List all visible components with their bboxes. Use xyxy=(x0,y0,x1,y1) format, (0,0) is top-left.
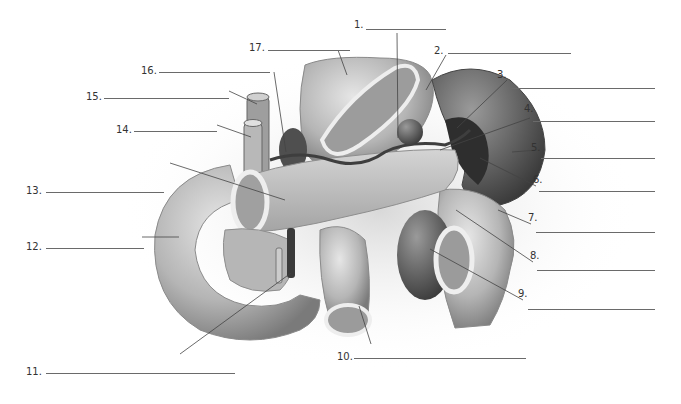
answer-line-11[interactable] xyxy=(46,373,235,374)
label-number-2: 2. xyxy=(434,46,444,56)
anatomy-worksheet: 1. 2. 3. 4. 5. 6. 7. 8. 9. 10. 11. 12. 1… xyxy=(0,0,681,404)
superior-mesenteric-artery xyxy=(276,248,282,283)
label-number-13: 13. xyxy=(26,186,42,196)
answer-line-12[interactable] xyxy=(46,248,144,249)
label-number-6: 6. xyxy=(533,175,543,185)
label-number-5: 5. xyxy=(531,143,541,153)
aorta-cut-end xyxy=(244,120,262,127)
answer-line-7[interactable] xyxy=(536,232,655,233)
answer-line-14[interactable] xyxy=(134,131,217,132)
answer-line-6[interactable] xyxy=(539,191,655,192)
answer-line-8[interactable] xyxy=(537,270,655,271)
label-number-3: 3. xyxy=(497,70,507,80)
pancreas-anatomy-illustration xyxy=(0,0,681,404)
answer-line-3[interactable] xyxy=(510,88,655,89)
label-number-7: 7. xyxy=(528,213,538,223)
answer-line-16[interactable] xyxy=(159,72,270,73)
label-number-14: 14. xyxy=(116,125,132,135)
answer-line-13[interactable] xyxy=(46,192,164,193)
answer-line-15[interactable] xyxy=(104,98,229,99)
answer-line-1[interactable] xyxy=(366,29,446,30)
answer-line-2[interactable] xyxy=(448,53,571,54)
answer-line-9[interactable] xyxy=(528,309,655,310)
label-number-11: 11. xyxy=(26,367,42,377)
head-of-pancreas xyxy=(223,229,293,292)
label-number-8: 8. xyxy=(530,251,540,261)
answer-line-17[interactable] xyxy=(268,50,350,51)
ivc-cut-end xyxy=(247,93,269,101)
answer-line-4[interactable] xyxy=(533,121,655,122)
duodenum-cut-section xyxy=(233,172,267,232)
label-number-1: 1. xyxy=(354,20,364,30)
answer-line-5[interactable] xyxy=(541,158,655,159)
label-number-17: 17. xyxy=(249,43,265,53)
jejunum-cut-section xyxy=(436,228,472,292)
label-number-4: 4. xyxy=(524,104,534,114)
label-number-10: 10. xyxy=(337,352,353,362)
label-number-16: 16. xyxy=(141,66,157,76)
label-number-15: 15. xyxy=(86,92,102,102)
label-number-12: 12. xyxy=(26,242,42,252)
label-number-9: 9. xyxy=(518,289,528,299)
superior-mesenteric-vein xyxy=(287,228,295,278)
gallbladder xyxy=(397,119,423,145)
answer-line-10[interactable] xyxy=(354,358,526,359)
